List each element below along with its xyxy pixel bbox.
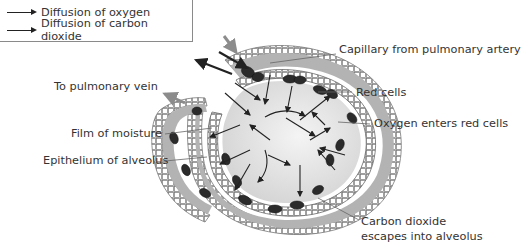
label-pulmonary-vein: To pulmonary vein <box>54 80 158 94</box>
label-epithelium: Epithelium of alveolus <box>43 154 168 168</box>
label-co2-line1: Carbon dioxide <box>361 215 446 229</box>
label-capillary: Capillary from pulmonary artery <box>339 43 521 57</box>
label-oxygen-enters: Oxygen enters red cells <box>374 117 508 131</box>
label-film-of-moisture: Film of moisture <box>71 127 162 141</box>
inflow-arrow <box>224 36 236 52</box>
label-red-cells: Red cells <box>356 86 406 100</box>
label-co2-line2: escapes into alveolus <box>361 230 483 244</box>
